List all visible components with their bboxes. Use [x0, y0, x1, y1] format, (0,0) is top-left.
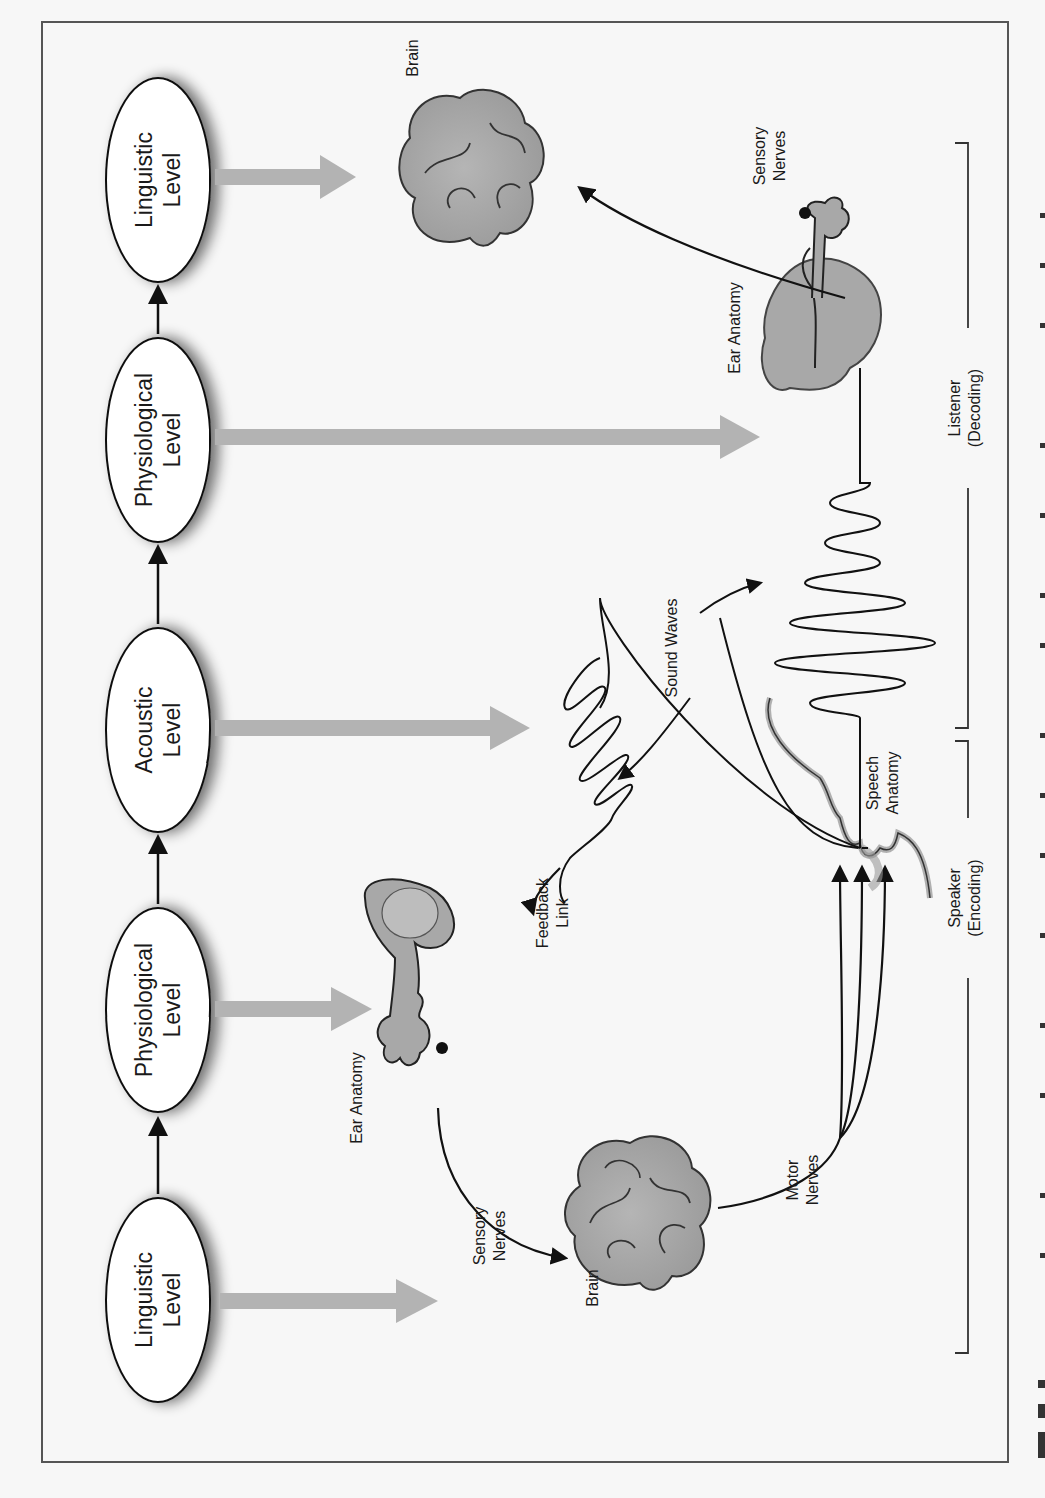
- feedback-wave-path: [600, 598, 860, 848]
- level-label: Linguistic: [131, 132, 157, 228]
- listener-brain-illustration: [399, 90, 543, 246]
- listener-brain-label: Brain: [404, 39, 421, 76]
- motor-nerves-label: Nerves: [804, 1155, 821, 1206]
- speaker-bracket: [955, 741, 968, 1353]
- speaker-brain-label: Brain: [584, 1269, 601, 1306]
- level-label: Physiological: [131, 943, 157, 1077]
- listener-ear-illustration: [762, 198, 881, 390]
- listener-sensory-nerves-label: Sensory: [751, 127, 768, 186]
- level-label: Level: [159, 703, 185, 758]
- clipped-caption-fragments: [1038, 213, 1045, 1458]
- speaker-brain-illustration: [565, 1136, 710, 1290]
- motor-nerves-paths: [718, 868, 885, 1208]
- listener-ear-anatomy-label: Ear Anatomy: [726, 282, 743, 374]
- listener-bracket-label: Listener: [946, 379, 963, 437]
- sound-waves-arrow-to-feedback: [620, 698, 690, 778]
- sound-waves-label: Sound Waves: [663, 598, 680, 697]
- level-label: Level: [159, 153, 185, 208]
- speaker-bracket-label: Speaker: [946, 868, 963, 928]
- speaker-ear-anatomy-label: Ear Anatomy: [348, 1052, 365, 1144]
- speaker-sensory-nerves-label: Sensory: [471, 1207, 488, 1266]
- level-label: Acoustic: [131, 687, 157, 774]
- level-label: Level: [159, 1273, 185, 1328]
- sound-waves-arrow-to-main: [700, 583, 760, 613]
- speaker-bracket-label: (Encoding): [966, 859, 983, 936]
- speech-anatomy-illustration: [768, 698, 930, 898]
- speech-anatomy-label: Anatomy: [884, 751, 901, 814]
- speaker-sensory-nerves-label: Nerves: [491, 1211, 508, 1262]
- listener-bracket-label: (Decoding): [966, 369, 983, 447]
- level-oval-linguistic-speaker: [106, 1198, 210, 1402]
- motor-nerves-label: Motor: [784, 1159, 801, 1201]
- level-label: Level: [159, 413, 185, 468]
- speech-anatomy-label: Speech: [864, 756, 881, 810]
- level-oval-physiological-speaker: [106, 908, 210, 1112]
- main-sound-wave: [775, 368, 935, 848]
- level-oval-linguistic-listener: [106, 78, 210, 282]
- level-label: Linguistic: [131, 1252, 157, 1348]
- level-label: Level: [159, 983, 185, 1038]
- level-oval-physiological-listener: [106, 338, 210, 542]
- listener-sensory-nerves-label: Nerves: [771, 131, 788, 182]
- level-label: Physiological: [131, 373, 157, 507]
- feedback-sound-wave: [560, 658, 632, 903]
- feedback-link-label: Link: [554, 897, 571, 927]
- speaker-ear-illustration: [365, 879, 454, 1065]
- speech-chain-diagram: Linguistic Level Physiological Level Aco…: [0, 0, 1045, 1498]
- level-oval-acoustic: [106, 628, 210, 832]
